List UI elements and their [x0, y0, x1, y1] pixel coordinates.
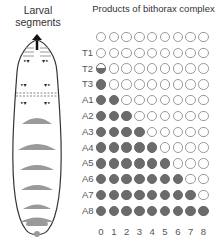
grid-cell [134, 142, 145, 153]
grid-cell [160, 111, 171, 122]
grid-cell [96, 111, 107, 122]
grid-cell [109, 48, 120, 59]
grid-cell [121, 48, 132, 59]
row-label: A8 [82, 206, 96, 216]
grid-cell [160, 190, 171, 201]
grid-cell [134, 32, 145, 43]
grid-cell [134, 63, 145, 74]
grid-cell [198, 48, 209, 59]
column-label: 3 [134, 226, 144, 237]
grid-cell [198, 79, 209, 90]
grid-cell [185, 127, 196, 138]
row-label: A3 [82, 127, 96, 137]
grid-cell [109, 111, 120, 122]
grid-cell [96, 190, 107, 201]
grid-cell [96, 127, 107, 138]
grid-cell [134, 158, 145, 169]
row-label: A6 [82, 174, 96, 184]
column-label: 0 [96, 226, 106, 237]
grid-cell [96, 206, 107, 217]
grid-cell [198, 32, 209, 43]
grid-cell [121, 127, 132, 138]
grid-cell [147, 142, 158, 153]
grid-cell [147, 79, 158, 90]
grid-cell [134, 79, 145, 90]
grid-cell [121, 174, 132, 185]
grid-cell [198, 206, 209, 217]
grid-cell [134, 111, 145, 122]
grid-cell [96, 142, 107, 153]
column-label: 8 [198, 226, 208, 237]
grid-cell [173, 206, 184, 217]
grid-cell [173, 95, 184, 106]
grid-cell [198, 111, 209, 122]
grid-cell [185, 79, 196, 90]
grid-cell [109, 206, 120, 217]
row-label: T3 [82, 79, 96, 89]
grid-cell [121, 142, 132, 153]
grid-cell [160, 95, 171, 106]
grid-cell [173, 111, 184, 122]
grid-cell [160, 63, 171, 74]
grid-cell [109, 63, 120, 74]
grid-cell [109, 32, 120, 43]
grid-cell [185, 190, 196, 201]
grid-cell [121, 190, 132, 201]
grid-cell [198, 95, 209, 106]
grid-cell [96, 63, 107, 74]
grid-cell [173, 142, 184, 153]
grid-cell [185, 63, 196, 74]
grid-cell [96, 32, 107, 43]
column-label: 7 [186, 226, 196, 237]
grid-cell [173, 48, 184, 59]
grid-cell [185, 95, 196, 106]
grid-cell [185, 32, 196, 43]
grid-cell [121, 111, 132, 122]
grid-cell [198, 63, 209, 74]
grid-cell [173, 32, 184, 43]
grid-cell [173, 158, 184, 169]
svg-text:▾•: ▾• [42, 57, 49, 64]
svg-text:▾•: ▾• [44, 81, 51, 88]
grid-cell [160, 32, 171, 43]
grid-cell [198, 190, 209, 201]
grid-cell [134, 174, 145, 185]
grid-cell [185, 158, 196, 169]
row-label: T1 [82, 48, 96, 58]
column-label: 1 [109, 226, 119, 237]
grid-cell [96, 48, 107, 59]
svg-text:▾•: ▾• [44, 99, 51, 106]
grid-cell [147, 63, 158, 74]
grid-cell [185, 142, 196, 153]
grid-cell [121, 79, 132, 90]
grid-cell [198, 174, 209, 185]
grid-cell [173, 174, 184, 185]
grid-cell [185, 174, 196, 185]
grid-cell [173, 79, 184, 90]
grid-cell [134, 48, 145, 59]
row-label: A1 [82, 95, 96, 105]
grid-cell [121, 95, 132, 106]
grid-cell [109, 127, 120, 138]
grid-cell [147, 127, 158, 138]
grid-cell [185, 206, 196, 217]
grid-cell [121, 32, 132, 43]
grid-cell [96, 174, 107, 185]
grid-cell [121, 63, 132, 74]
column-label: 4 [147, 226, 157, 237]
grid-cell [134, 206, 145, 217]
grid-cell [109, 174, 120, 185]
grid-cell [198, 127, 209, 138]
grid-cell [147, 206, 158, 217]
grid-cell [147, 174, 158, 185]
grid-cell [134, 127, 145, 138]
row-label: A5 [82, 158, 96, 168]
grid-cell [160, 127, 171, 138]
column-label: 5 [160, 226, 170, 237]
grid-cell [121, 158, 132, 169]
grid-cell [198, 142, 209, 153]
grid-cell [173, 63, 184, 74]
grid-title: Products of bithorax complex [88, 3, 219, 14]
row-label: A7 [82, 190, 96, 200]
row-label: A2 [82, 111, 96, 121]
